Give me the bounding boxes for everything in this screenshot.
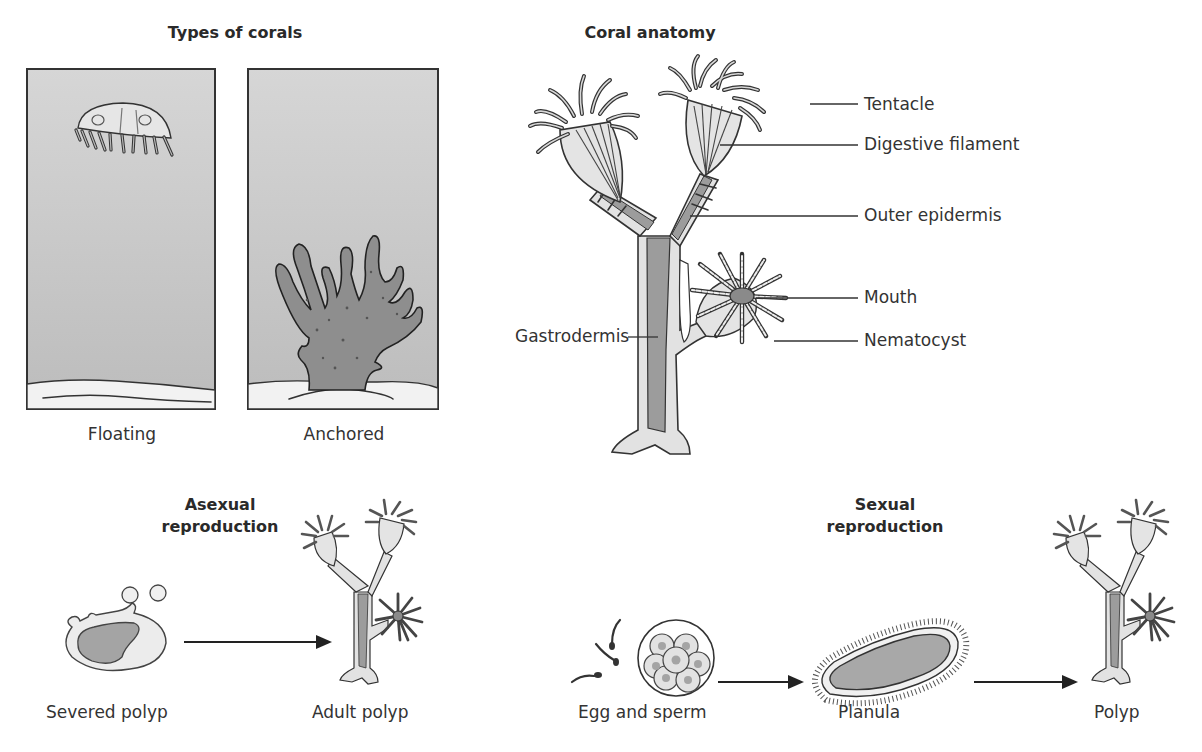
polyp-label: Polyp [1094,702,1140,722]
coral-anatomy-title: Coral anatomy [570,22,730,44]
planula-icon [810,610,974,714]
planula-label: Planula [838,702,900,722]
floating-label: Floating [30,424,214,444]
polyp-icon [1050,500,1182,690]
label-outer-epidermis: Outer epidermis [864,205,1002,225]
label-nematocyst: Nematocyst [864,330,966,350]
types-of-corals-title: Types of corals [100,22,370,44]
egg-and-sperm-label: Egg and sperm [578,702,706,722]
severed-polyp-icon [58,585,178,685]
adult-polyp-icon [298,500,430,690]
label-mouth: Mouth [864,287,917,307]
floating-panel [26,68,216,410]
mouth-icon [730,288,754,304]
severed-polyp-label: Severed polyp [46,702,168,722]
coral-anatomy-diagram [520,50,860,460]
anchored-label: Anchored [250,424,438,444]
label-digestive-filament: Digestive filament [864,134,1020,154]
anchored-panel [247,68,439,410]
label-gastrodermis: Gastrodermis [515,326,629,346]
adult-polyp-label: Adult polyp [312,702,408,722]
sexual-reproduction-title: Sexual reproduction [810,494,960,538]
arrow-icon [716,672,806,692]
asexual-reproduction-title: Asexual reproduction [150,494,290,538]
label-tentacle: Tentacle [864,94,934,114]
